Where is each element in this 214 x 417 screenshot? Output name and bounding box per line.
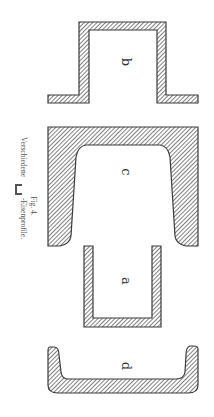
caption-prefix: Verschiedene [19, 137, 28, 178]
profile-b: b [48, 22, 198, 103]
profile-a: a [84, 246, 161, 327]
figure-number: Fig. 4. [29, 196, 38, 216]
profile-a-shape [84, 246, 161, 327]
caption-suffix: -Eisenprofile. [19, 198, 28, 239]
profile-b-label: b [119, 58, 134, 66]
profile-c: c [48, 127, 198, 246]
profile-c-label: c [119, 168, 134, 175]
figure-4: b c a d Fig. 4. Verschiedene -Eisenprofi… [0, 0, 214, 417]
figure-caption: Fig. 4. Verschiedene -Eisenprofile. [15, 137, 38, 239]
channel-profiles-diagram: b c a d Fig. 4. Verschiedene -Eisenprofi… [0, 0, 214, 417]
profile-a-label: a [119, 277, 134, 285]
profile-d-label: d [119, 362, 134, 370]
profile-c-shape [48, 127, 198, 246]
channel-symbol-icon [15, 184, 22, 195]
profile-d: d [48, 346, 198, 393]
